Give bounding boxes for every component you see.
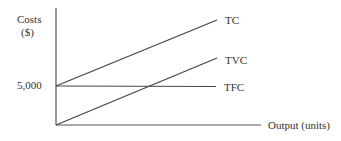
tvc-label: TVC (225, 54, 247, 67)
y-axis-label-line2: ($) (21, 26, 34, 39)
tfc-label: TFC (224, 81, 244, 94)
tvc-line (56, 58, 217, 125)
tfc-line (56, 86, 216, 87)
tc-label: TC (225, 14, 239, 27)
y-axis-label-line1: Costs (17, 13, 41, 26)
y-tick-5000: 5,000 (17, 79, 42, 92)
x-axis-label: Output (units) (268, 119, 330, 132)
tc-line (56, 20, 217, 86)
